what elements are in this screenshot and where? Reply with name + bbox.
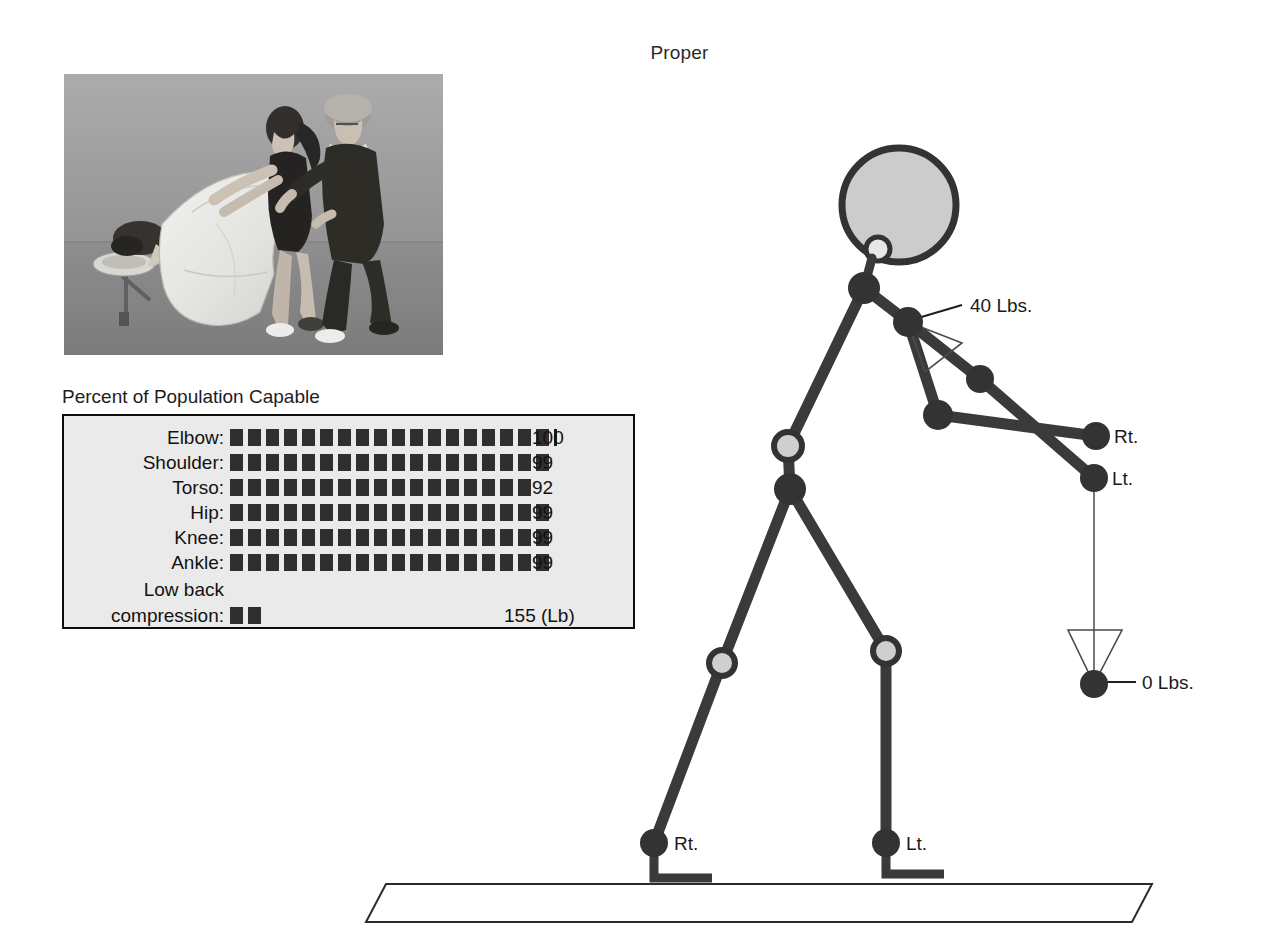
capability-row-value: 99 <box>532 453 553 472</box>
left-thigh <box>790 489 886 651</box>
right-shank <box>654 663 722 843</box>
shoulder-joint <box>848 272 880 304</box>
bar-block <box>356 429 369 446</box>
capability-row-value: 99 <box>532 528 553 547</box>
bar-block <box>248 554 261 571</box>
bar-block <box>338 504 351 521</box>
lumbar-joint <box>774 432 802 460</box>
bar-block <box>392 554 405 571</box>
bar-block <box>392 479 405 496</box>
capability-row-label: Ankle: <box>64 553 230 572</box>
bar-block <box>230 607 243 624</box>
left-ankle-joint <box>872 829 900 857</box>
bar-block <box>374 429 387 446</box>
bar-block <box>248 479 261 496</box>
bar-block <box>518 529 531 546</box>
bar-block <box>356 504 369 521</box>
bar-block <box>320 529 333 546</box>
bar-block <box>428 454 441 471</box>
bar-block <box>482 479 495 496</box>
capability-row-bar <box>230 478 536 496</box>
capability-row-bar <box>230 553 554 571</box>
bar-block <box>248 504 261 521</box>
bar-block <box>518 554 531 571</box>
bar-block <box>464 454 477 471</box>
bar-block <box>230 504 243 521</box>
force-vector-edge <box>908 322 925 372</box>
lifting-demonstration-photo <box>64 74 443 355</box>
force-vector-triangle <box>908 322 962 372</box>
bar-block <box>428 554 441 571</box>
left-knee-joint <box>873 638 899 664</box>
capability-row: Elbow:100 <box>64 426 633 448</box>
bar-block <box>500 554 513 571</box>
hand-load-leader <box>918 305 962 318</box>
bar-block <box>500 454 513 471</box>
bar-block <box>446 479 459 496</box>
bar-block <box>248 607 261 624</box>
bar-block <box>464 554 477 571</box>
weight-load-label: 0 Lbs. <box>1142 672 1194 694</box>
bar-block <box>482 429 495 446</box>
bar-block <box>446 454 459 471</box>
bar-block <box>302 479 315 496</box>
capability-row-value: 99 <box>532 503 553 522</box>
bar-block <box>266 454 279 471</box>
bar-block <box>302 504 315 521</box>
bar-block <box>266 529 279 546</box>
near-hand-link <box>980 379 1094 478</box>
bar-block <box>428 429 441 446</box>
bar-block <box>482 454 495 471</box>
bar-block <box>284 554 297 571</box>
capability-row-bar <box>230 428 561 446</box>
bar-block <box>302 454 315 471</box>
bar-block <box>284 429 297 446</box>
neck-link <box>864 258 872 288</box>
bar-block <box>518 504 531 521</box>
right-hand-joint <box>1082 422 1110 450</box>
bar-block <box>428 529 441 546</box>
near-upper-arm <box>864 288 908 322</box>
page-title: Proper <box>0 42 1263 64</box>
bar-block <box>320 454 333 471</box>
bar-block <box>482 554 495 571</box>
capability-row-label: Hip: <box>64 503 230 522</box>
head <box>842 148 956 262</box>
bar-block <box>356 454 369 471</box>
bar-block <box>500 529 513 546</box>
bar-block <box>446 529 459 546</box>
bar-block <box>500 504 513 521</box>
bar-block <box>482 504 495 521</box>
bar-block <box>392 529 405 546</box>
capability-row-bar <box>230 453 554 471</box>
bar-block <box>410 529 423 546</box>
bar-block <box>410 504 423 521</box>
capability-row-label: Knee: <box>64 528 230 547</box>
bar-block <box>374 529 387 546</box>
bar-block <box>230 479 243 496</box>
far-wrist-joint <box>923 400 953 430</box>
bar-block <box>230 554 243 571</box>
left-foot-label: Lt. <box>906 833 927 855</box>
capability-row: Ankle:99 <box>64 551 633 573</box>
bar-block <box>338 554 351 571</box>
bar-block <box>356 479 369 496</box>
capability-row-bar <box>230 528 554 546</box>
bar-block <box>428 504 441 521</box>
bar-block <box>320 479 333 496</box>
bar-block <box>500 429 513 446</box>
bar-block <box>392 504 405 521</box>
near-wrist-joint <box>966 365 994 393</box>
bar-block <box>266 504 279 521</box>
far-hand-link <box>938 415 1096 436</box>
bar-block <box>320 429 333 446</box>
capability-row-value: 99 <box>532 553 553 572</box>
bar-block <box>464 529 477 546</box>
right-thigh <box>722 489 790 663</box>
bar-block <box>230 529 243 546</box>
bar-block <box>374 479 387 496</box>
lowback-label-row: Low back <box>64 578 633 600</box>
capability-row-value: 100 <box>532 428 564 447</box>
bar-block <box>464 504 477 521</box>
capability-panel: Elbow:100Shoulder:99Torso:92Hip:99Knee:9… <box>62 414 635 629</box>
